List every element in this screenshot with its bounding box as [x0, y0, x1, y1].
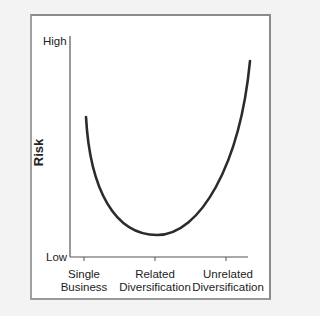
y-label-high: High	[43, 35, 67, 48]
x-label-line: Diversification	[183, 281, 273, 294]
risk-curve	[86, 61, 250, 235]
y-label-low: Low	[46, 251, 67, 264]
y-axis-title: Risk	[31, 133, 46, 173]
x-label-unrelated-diversification: Unrelated Diversification	[183, 268, 273, 294]
x-label-line: Unrelated	[183, 268, 273, 281]
